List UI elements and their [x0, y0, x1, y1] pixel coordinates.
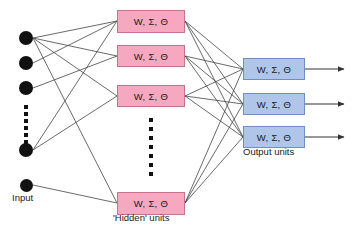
connection-edge	[185, 96, 243, 137]
connection-edge	[33, 96, 117, 150]
hidden-ellipsis-dot	[149, 145, 153, 149]
output-layer-caption: Output units	[243, 146, 294, 157]
output-unit-2[interactable]: W, Σ, Θ	[243, 93, 305, 115]
input-to-hidden-edges	[33, 21, 117, 203]
hidden-unit-2[interactable]: W, Σ, Θ	[117, 45, 185, 67]
hidden-unit-1[interactable]: W, Σ, Θ	[117, 10, 185, 33]
unit-label: W, Σ, Θ	[134, 198, 168, 209]
output-unit-3[interactable]: W, Σ, Θ	[243, 126, 305, 148]
input-ellipsis-dot	[24, 133, 28, 137]
output-unit-1[interactable]: W, Σ, Θ	[243, 58, 305, 80]
input-node-dot	[20, 179, 33, 192]
unit-label: W, Σ, Θ	[257, 132, 291, 143]
connection-edge	[185, 104, 243, 203]
unit-label: W, Σ, Θ	[257, 64, 291, 75]
hidden-ellipsis-dot	[149, 118, 153, 122]
input-ellipsis-dot	[24, 112, 28, 116]
connection-edge	[33, 56, 117, 88]
unit-label: W, Σ, Θ	[134, 51, 168, 62]
input-ellipsis-dot	[24, 105, 28, 109]
connection-edge	[33, 38, 117, 203]
unit-label: W, Σ, Θ	[257, 99, 291, 110]
hidden-to-output-edges	[185, 21, 243, 203]
hidden-ellipsis-dot	[149, 172, 153, 176]
input-node-dot	[19, 31, 33, 45]
input-ellipsis-dot	[24, 119, 28, 123]
unit-label: W, Σ, Θ	[134, 16, 168, 27]
input-layer-caption: Input	[12, 192, 33, 203]
unit-label: W, Σ, Θ	[134, 91, 168, 102]
connection-edge	[33, 185, 117, 203]
input-node-dot	[19, 56, 33, 70]
hidden-ellipsis-dot	[149, 127, 153, 131]
hidden-ellipsis-dot	[149, 136, 153, 140]
hidden-ellipsis-dot	[149, 163, 153, 167]
hidden-layer-caption: 'Hidden' units	[113, 212, 169, 223]
input-node-dot	[19, 81, 33, 95]
input-ellipsis-dot	[24, 140, 28, 144]
hidden-unit-3[interactable]: W, Σ, Θ	[117, 85, 185, 107]
connection-edge	[185, 69, 243, 203]
hidden-ellipsis-dot	[149, 154, 153, 158]
neural-network-diagram: W, Σ, ΘW, Σ, ΘW, Σ, ΘW, Σ, Θ W, Σ, ΘW, Σ…	[0, 0, 356, 231]
connection-edge	[185, 137, 243, 203]
connection-edge	[185, 21, 243, 69]
connection-edge	[33, 21, 117, 38]
input-ellipsis-dot	[24, 126, 28, 130]
connection-edge	[33, 21, 117, 63]
output-arrows	[305, 69, 344, 137]
input-node-dot	[19, 143, 33, 157]
connection-edge	[185, 56, 243, 69]
